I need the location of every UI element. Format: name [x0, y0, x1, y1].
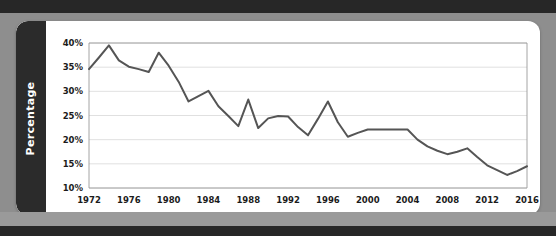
svg-text:2004: 2004 — [396, 195, 420, 205]
y-axis-label-bar: Percentage — [16, 21, 46, 215]
svg-text:10%: 10% — [63, 183, 84, 193]
svg-text:2008: 2008 — [436, 195, 460, 205]
plot-area: 40%35%30%25%20%15%10%1972197619801984198… — [46, 21, 540, 215]
chart-card: Percentage 40%35%30%25%20%15%10%19721976… — [16, 21, 540, 215]
y-axis-label: Percentage — [25, 81, 38, 155]
bottom-gutter — [0, 212, 556, 226]
svg-text:2000: 2000 — [356, 195, 380, 205]
svg-text:35%: 35% — [63, 62, 84, 72]
svg-text:2016: 2016 — [515, 195, 539, 205]
svg-text:40%: 40% — [63, 38, 84, 48]
svg-text:20%: 20% — [63, 135, 84, 145]
svg-text:15%: 15% — [63, 159, 84, 169]
top-band — [0, 0, 556, 13]
svg-text:1980: 1980 — [157, 195, 181, 205]
svg-text:1972: 1972 — [77, 195, 101, 205]
svg-text:1976: 1976 — [117, 195, 141, 205]
page-root: Percentage 40%35%30%25%20%15%10%19721976… — [0, 0, 556, 236]
svg-text:1996: 1996 — [316, 195, 340, 205]
line-chart: 40%35%30%25%20%15%10%1972197619801984198… — [46, 21, 540, 215]
svg-text:30%: 30% — [63, 86, 84, 96]
svg-text:1992: 1992 — [276, 195, 300, 205]
svg-text:1984: 1984 — [197, 195, 221, 205]
svg-text:1988: 1988 — [236, 195, 260, 205]
svg-text:25%: 25% — [63, 111, 84, 121]
svg-text:2012: 2012 — [475, 195, 499, 205]
bottom-band — [0, 226, 556, 236]
